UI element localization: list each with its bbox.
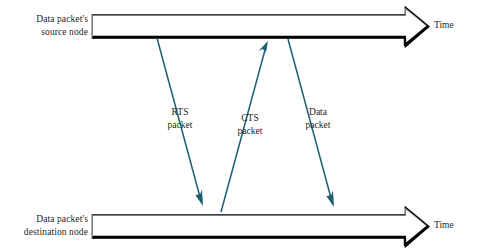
cts-packet-label-line2: packet xyxy=(222,125,278,138)
cts-packet-label: CTS packet xyxy=(222,112,278,137)
source-node-label: Data packet's source node xyxy=(0,13,88,38)
source-arrow-body xyxy=(93,9,428,46)
rts-packet-label-line2: packet xyxy=(152,119,208,132)
destination-arrow-body xyxy=(93,209,428,246)
data-packet-label: Data packet xyxy=(290,106,346,131)
destination-timeline-arrow xyxy=(93,209,429,247)
destination-node-label: Data packet's destination node xyxy=(0,213,88,238)
source-time-axis-label: Time xyxy=(434,20,454,30)
data-packet-label-line1: Data xyxy=(309,107,327,117)
data-packet-label-line2: packet xyxy=(290,119,346,132)
rts-packet-label-line1: RTS xyxy=(172,107,189,117)
destination-time-axis-label: Time xyxy=(434,220,454,230)
source-timeline-arrow xyxy=(93,9,429,47)
destination-node-label-line1: Data packet's xyxy=(36,214,88,224)
diagram-canvas: Data packet's source node Data packet's … xyxy=(0,0,485,251)
source-node-label-line1: Data packet's xyxy=(36,14,88,24)
rts-packet-label: RTS packet xyxy=(152,106,208,131)
cts-packet-label-line1: CTS xyxy=(241,113,258,123)
source-node-label-line2: source node xyxy=(0,26,88,39)
cts-packet-arrowhead xyxy=(258,41,268,52)
destination-node-label-line2: destination node xyxy=(0,226,88,239)
